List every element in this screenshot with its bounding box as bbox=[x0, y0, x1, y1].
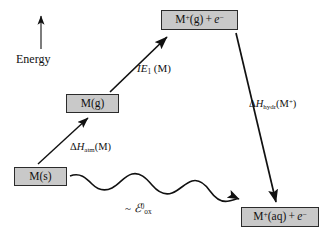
overall-oxidation-wavy-arrow bbox=[70, 174, 239, 202]
oxidation-potential-sub: ox bbox=[144, 208, 151, 216]
diagram-vector-layer bbox=[0, 0, 328, 236]
energy-level-diagram: M+(g) + e− M(g) M(s) M+(aq) + e− Energy … bbox=[0, 0, 328, 236]
oxidation-potential-tilde: ~ bbox=[125, 202, 134, 214]
state-box-m-solid: M(s) bbox=[14, 167, 67, 186]
ionization-energy-label-base: IE bbox=[137, 62, 147, 74]
energy-axis-label: Energy bbox=[16, 53, 50, 65]
state-box-mplus-aqueous: M+(aq) + e− bbox=[241, 207, 319, 227]
atomization-enthalpy-label: ΔHatm(M) bbox=[70, 142, 111, 153]
atomization-enthalpy-tail: (M) bbox=[95, 141, 111, 152]
state-box-m-gas: M(g) bbox=[66, 94, 119, 113]
state-box-m-gas-label: M(g) bbox=[81, 98, 105, 110]
hydration-enthalpy-close: ) bbox=[293, 98, 297, 109]
state-box-m-solid-label: M(s) bbox=[29, 171, 51, 183]
ionization-energy-label: IE1 (M) bbox=[137, 63, 171, 76]
oxidation-potential-symbol: ℰ bbox=[134, 201, 141, 215]
hydration-arrow bbox=[236, 33, 276, 202]
state-box-mplus-gas-label: M+(g) + e− bbox=[175, 14, 223, 26]
state-box-mplus-aqueous-label: M+(aq) + e− bbox=[253, 211, 307, 223]
state-box-mplus-gas: M+(g) + e− bbox=[161, 10, 238, 30]
atomization-enthalpy-sub: atm bbox=[84, 146, 94, 153]
hydration-enthalpy-label: ΔHhydr(M+) bbox=[249, 99, 296, 110]
oxidation-potential-label: ~ ℰ0ox bbox=[125, 203, 152, 216]
ionization-energy-label-tail: (M) bbox=[151, 62, 171, 74]
hydration-enthalpy-tail: (M bbox=[276, 98, 289, 109]
hydration-enthalpy-sub: hydr bbox=[263, 103, 276, 110]
